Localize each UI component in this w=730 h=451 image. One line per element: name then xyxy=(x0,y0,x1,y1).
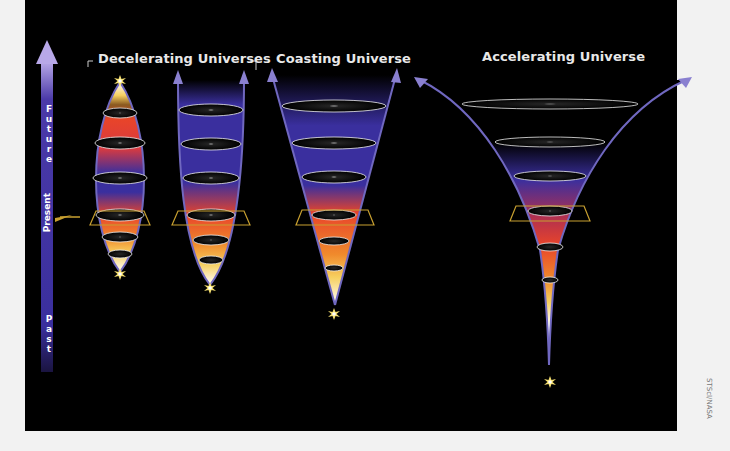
open-universe-shape xyxy=(172,70,250,294)
image-credit: STScI/NASA xyxy=(705,378,713,419)
present-pointer-icon xyxy=(55,215,72,222)
title-accelerating: Accelerating Universe xyxy=(482,49,645,64)
axis-label-present: Present xyxy=(42,193,52,232)
coasting-universe-shape xyxy=(267,68,401,320)
axis-label-past: Past xyxy=(43,314,55,354)
title-decelerating: Decelerating Universes xyxy=(98,51,271,66)
accelerating-universe-shape xyxy=(414,77,692,388)
closed-universe-shape xyxy=(90,75,150,280)
axis-label-future: Future xyxy=(43,104,55,164)
universe-diagram xyxy=(0,0,730,451)
title-coasting: Coasting Universe xyxy=(276,51,411,66)
